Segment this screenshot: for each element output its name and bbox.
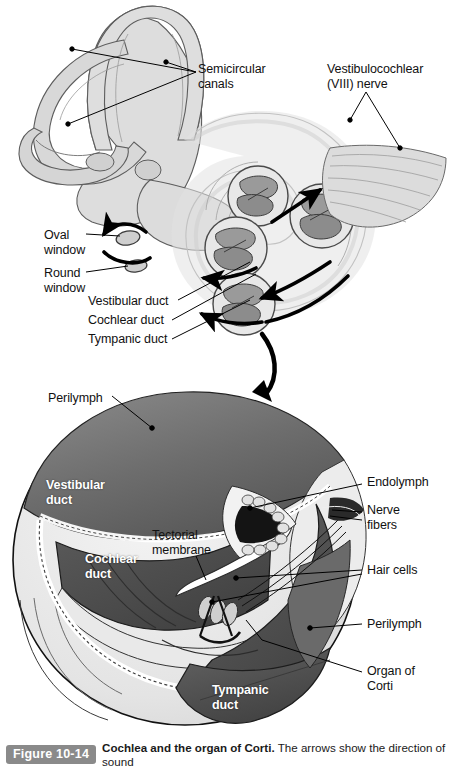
figure-number-badge: Figure 10-14 xyxy=(6,745,96,764)
label-cochlear-duct: Cochlear duct xyxy=(88,313,164,328)
label-perilymph-top: Perilymph xyxy=(48,391,103,406)
label-round-window: Round window xyxy=(44,266,85,295)
figure-container: Semicircular canals Vestibulocochlear (V… xyxy=(0,0,449,767)
oval-window-shape xyxy=(115,229,141,247)
label-semicircular-canals: Semicircular canals xyxy=(198,62,266,91)
label-vestibular-duct-inner: Vestibular duct xyxy=(46,478,105,507)
zoom-connector-arrow xyxy=(252,334,275,402)
lower-cross-section-group xyxy=(13,392,366,725)
label-oval-window: Oval window xyxy=(44,228,85,257)
figure-caption: Figure 10-14 Cochlea and the organ of Co… xyxy=(0,742,449,767)
cochlear-turn-4 xyxy=(213,273,275,335)
label-hair-cells: Hair cells xyxy=(367,563,417,578)
label-vestibulocochlear-nerve: Vestibulocochlear (VIII) nerve xyxy=(327,62,423,91)
label-tectorial-membrane: Tectorial membrane xyxy=(152,528,211,557)
label-nerve-fibers: Nerve fibers xyxy=(367,503,400,532)
label-endolymph: Endolymph xyxy=(367,475,429,490)
label-perilymph-right: Perilymph xyxy=(367,617,422,632)
label-tympanic-duct: Tympanic duct xyxy=(88,332,167,347)
label-vestibular-duct: Vestibular duct xyxy=(88,294,169,309)
label-tympanic-duct-inner: Tympanic duct xyxy=(212,683,269,712)
label-cochlear-duct-inner: Cochlear duct xyxy=(85,552,138,581)
label-organ-of-corti: Organ of Corti xyxy=(367,664,415,693)
caption-text: Cochlea and the organ of Corti. The arro… xyxy=(102,741,449,767)
caption-title: Cochlea and the organ of Corti. xyxy=(102,741,275,754)
vestibulocochlear-nerve-shape xyxy=(323,145,447,227)
